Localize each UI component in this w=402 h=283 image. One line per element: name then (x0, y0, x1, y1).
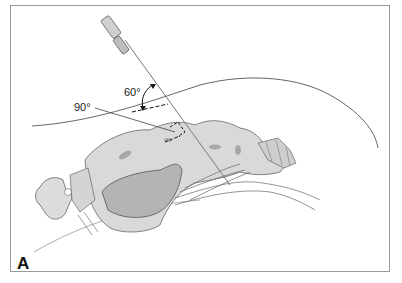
angle-label-90: 90° (74, 101, 91, 113)
sacrum-bone (85, 121, 290, 232)
angle-label-60: 60° (124, 86, 141, 98)
lumbar-vertebra (36, 178, 73, 220)
illustration (0, 0, 402, 283)
panel-label: A (17, 254, 29, 274)
angle-60-arc (142, 85, 152, 108)
